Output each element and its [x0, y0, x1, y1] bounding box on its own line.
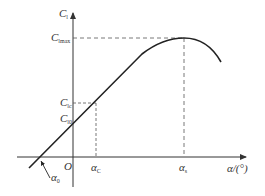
x-axis-label: α/(°): [227, 163, 248, 174]
alpha-c-label: αC: [91, 162, 101, 174]
clmax-label: Clmax: [51, 32, 70, 44]
lift-curve: [29, 38, 221, 168]
origin-label: O: [64, 161, 72, 172]
lift-curve-diagram: [0, 0, 265, 196]
alpha-s-label: αs: [179, 162, 187, 174]
alpha0-pointer-arrow: [41, 161, 50, 178]
cl0-label: Cl0: [60, 113, 72, 125]
y-axis-label: Cl: [59, 8, 68, 20]
clc-label: Clc: [60, 97, 72, 109]
alpha0-label: α0: [51, 172, 60, 184]
